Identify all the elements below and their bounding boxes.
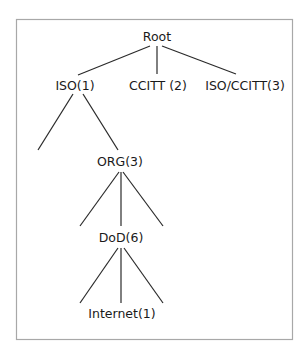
edge-root-isoccitt [162, 46, 236, 74]
edge-org-unlabeled-right [123, 172, 163, 226]
node-iso: ISO(1) [55, 78, 94, 93]
edge-org-unlabeled-left [80, 172, 119, 226]
edge-root-iso [78, 46, 150, 75]
node-org: ORG(3) [97, 154, 143, 169]
edge-dod-unlabeled-left [80, 248, 118, 303]
node-root: Root [143, 29, 171, 44]
node-dod: DoD(6) [99, 230, 144, 245]
node-ccitt: CCITT (2) [129, 78, 187, 93]
node-internet: Internet(1) [88, 306, 155, 321]
oid-tree-diagram: Root ISO(1) CCITT (2) ISO/CCITT(3) ORG(3… [0, 0, 305, 354]
edge-dod-unlabeled-right [124, 248, 163, 303]
edge-iso-org [83, 94, 118, 150]
edge-iso-unlabeled [38, 94, 73, 150]
node-iso-ccitt: ISO/CCITT(3) [205, 78, 285, 93]
